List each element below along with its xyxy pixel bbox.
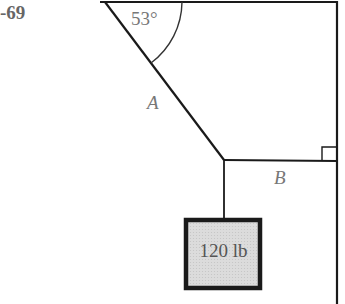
weight-label: 120 lb — [187, 240, 260, 262]
right-angle-marker — [322, 147, 337, 161]
cable-b — [224, 160, 337, 161]
cable-b-label: B — [274, 167, 286, 189]
angle-label: 53° — [131, 8, 158, 30]
force-diagram — [0, 0, 345, 304]
cable-a-label: A — [147, 92, 159, 114]
cable-a — [105, 2, 224, 160]
